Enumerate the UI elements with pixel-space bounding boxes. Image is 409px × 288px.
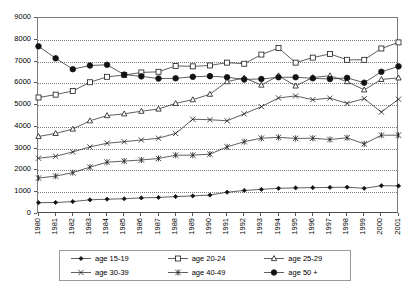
data-point [242,188,246,192]
x-tick-mark-1987 [158,213,159,216]
legend-item-age-40-49[interactable]: age 40-49 [157,268,254,277]
data-point [396,64,402,70]
series-layer [38,18,399,214]
y-tick-label-2000: 2000 [14,165,31,173]
x-tick-label-1996: 1996 [308,218,316,235]
data-point [105,74,110,79]
x-tick-label-1985: 1985 [119,218,127,235]
data-point [311,186,315,190]
data-point [87,164,92,170]
data-point [53,92,58,97]
x-tick-mark-1986 [140,213,141,216]
data-point [122,197,126,201]
data-point [379,46,384,51]
star-icon [167,268,189,277]
data-point [207,91,212,96]
legend-item-age-15-19[interactable]: age 15-19 [60,254,157,263]
data-point [259,52,264,57]
data-point [310,55,315,60]
data-point [396,40,401,45]
x-tick-label-1994: 1994 [274,218,282,235]
legend-item-age-20-24[interactable]: age 20-24 [157,254,254,263]
x-tick-mark-1996 [312,213,313,216]
data-point [70,66,76,72]
data-point [225,190,229,194]
x-tick-label-1988: 1988 [171,218,179,235]
data-point [293,83,298,88]
x-tick-label-1986: 1986 [136,218,144,235]
x-tick-label-1987: 1987 [154,218,162,235]
x-tick-mark-1993 [260,213,261,216]
x-tick-mark-1994 [278,213,279,216]
data-point [259,82,264,87]
data-point [156,69,161,74]
x-tick-mark-1997 [329,213,330,216]
x-tick-label-1984: 1984 [102,218,110,235]
open-square-icon [167,254,189,263]
data-point [259,187,263,191]
y-tick-label-8000: 8000 [14,35,31,43]
x-tick-mark-1980 [38,213,39,216]
data-point [87,63,93,69]
data-point [207,63,212,68]
data-point [396,97,401,102]
series-age-40-49 [36,132,401,181]
data-point [190,64,195,69]
x-tick-mark-1990 [209,213,210,216]
data-point [242,111,247,116]
data-point [54,200,58,204]
series-line [39,186,399,203]
y-tick-label-3000: 3000 [14,144,31,152]
legend-item-age-50-+[interactable]: age 50 + [253,268,350,277]
data-point [36,95,41,100]
x-tick-mark-2000 [380,213,381,216]
data-point [294,186,298,190]
data-point [53,55,59,61]
data-point [259,76,265,82]
data-point [207,73,213,79]
data-point [362,186,366,190]
x-tick-mark-1981 [55,213,56,216]
x-tick-label-1980: 1980 [34,218,42,235]
x-tick-label-2000: 2000 [376,218,384,235]
data-point [362,57,367,62]
data-point [70,88,75,93]
data-point [88,198,92,202]
legend-label: age 30-39 [95,268,129,277]
x-tick-label-2001: 2001 [394,218,402,235]
legend-item-age-30-39[interactable]: age 30-39 [60,268,157,277]
data-point [241,77,247,83]
x-tick-mark-1984 [106,213,107,216]
x-tick-mark-1982 [72,213,73,216]
y-tick-label-9000: 9000 [14,13,31,21]
y-tick-label-5000: 5000 [14,100,31,108]
chart-legend: age 15-19age 20-24age 25-29age 30-39age … [59,250,351,281]
data-point [224,74,230,80]
x-tick-mark-1995 [295,213,296,216]
data-point [225,60,230,65]
data-point [190,74,196,80]
data-point [105,197,109,201]
y-tick-label-4000: 4000 [14,122,31,130]
x-tick-label-1983: 1983 [85,218,93,235]
data-point [173,63,178,68]
x-tick-mark-1991 [226,213,227,216]
x-tick-mark-2001 [398,213,399,216]
data-point [396,75,401,80]
data-point [36,44,42,50]
data-point [344,75,350,81]
data-point [293,60,298,65]
data-point [173,76,179,82]
data-point [156,195,160,199]
data-point [362,96,367,101]
legend-item-age-25-29[interactable]: age 25-29 [253,254,350,263]
data-point [87,80,92,85]
data-point [293,74,299,80]
x-tick-mark-1983 [89,213,90,216]
legend-label: age 40-49 [192,268,226,277]
data-point [242,61,247,66]
y-axis: 0100020003000400050006000700080009000 [0,0,37,213]
x-tick-label-1991: 1991 [222,218,230,235]
data-point [345,185,349,189]
x-tick-label-1997: 1997 [325,218,333,235]
